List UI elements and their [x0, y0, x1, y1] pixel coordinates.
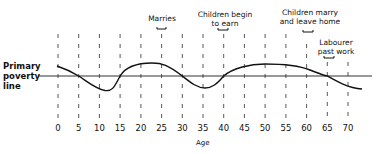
poverty-line-label: Primary poverty line [3, 61, 51, 91]
x-tick-70: 70 [343, 123, 354, 133]
grid-lines [58, 34, 348, 120]
y-label-line2: poverty [3, 71, 51, 81]
x-tick-45: 45 [239, 123, 250, 133]
annotation-brackets [157, 27, 334, 58]
x-tick-60: 60 [301, 123, 312, 133]
annotation-children-begin-to-earn: Children begin to earn [198, 10, 253, 28]
annotation-labourer-past-work: Labourer past work [318, 38, 355, 56]
x-tick-20: 20 [135, 123, 146, 133]
annotation-children-marry-line2: and leave home [280, 17, 341, 26]
x-tick-40: 40 [218, 123, 229, 133]
y-label-line1: Primary [3, 61, 51, 71]
x-tick-25: 25 [156, 123, 167, 133]
x-tick-5: 5 [76, 123, 81, 133]
annotation-children-marry: Children marry and leave home [280, 8, 341, 26]
annotation-marries-text: Marries [148, 14, 176, 23]
x-tick-10: 10 [94, 123, 105, 133]
x-axis-label: Age [196, 139, 210, 147]
annotation-children-earn-line1: Children begin [198, 10, 253, 19]
x-tick-65: 65 [322, 123, 333, 133]
annotation-labourer-line2: past work [318, 47, 355, 56]
annotation-marries: Marries [148, 14, 176, 23]
life-cycle-curve [57, 63, 362, 91]
y-label-line3: line [3, 81, 51, 91]
annotation-children-marry-line1: Children marry [280, 8, 341, 17]
x-tick-30: 30 [177, 123, 188, 133]
annotation-children-earn-line2: to earn [198, 19, 253, 28]
x-tick-55: 55 [280, 123, 291, 133]
x-tick-35: 35 [198, 123, 209, 133]
x-tick-0: 0 [55, 123, 60, 133]
x-tick-15: 15 [115, 123, 126, 133]
annotation-labourer-line1: Labourer [318, 38, 355, 47]
x-tick-50: 50 [260, 123, 271, 133]
